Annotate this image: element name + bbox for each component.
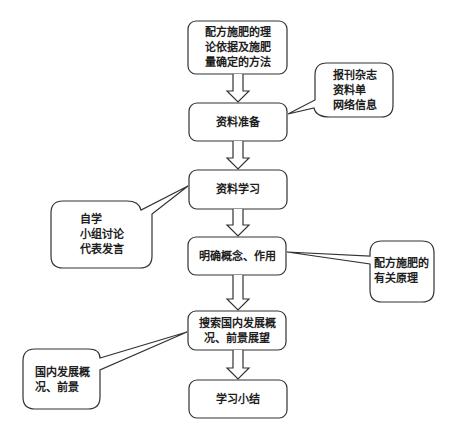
arrow-down-icon (227, 275, 249, 310)
step5-label: 搜索国内发展概 况、前景展望 (188, 311, 286, 350)
callout-study-label: 自学 小组讨论 代表发言 (80, 212, 150, 257)
step1-label: 配方施肥的理 论依据及施肥 量确定的方法 (188, 21, 287, 74)
step4-label: 明确概念、作用 (188, 237, 286, 275)
arrow-down-icon (227, 209, 249, 236)
callout-domestic-label: 国内发展概 况、前景 (35, 365, 99, 395)
flowchart-canvas: 配方施肥的理 论依据及施肥 量确定的方法 资料准备 资料学习 明确概念、作用 搜… (0, 0, 457, 441)
callout-principles-label: 配方施肥的 有关原理 (374, 256, 436, 286)
step6-label: 学习小结 (189, 380, 287, 418)
step2-label: 资料准备 (189, 103, 287, 141)
callout-materials-label: 报刊杂志 资料单 网络信息 (333, 68, 393, 113)
step3-label: 资料学习 (189, 170, 287, 209)
arrow-down-icon (227, 74, 249, 102)
arrow-down-icon (227, 350, 249, 379)
arrow-down-icon (227, 141, 249, 169)
